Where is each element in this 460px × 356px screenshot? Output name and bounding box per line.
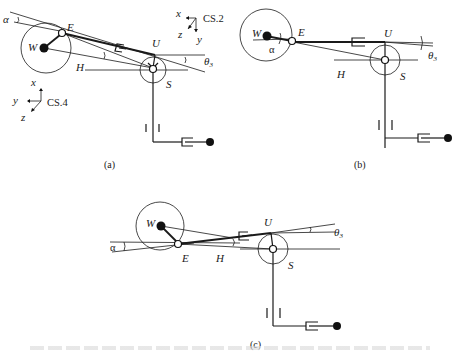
svg-text:y: y [12, 94, 18, 106]
shoulder-joint-S [270, 246, 277, 253]
elbow-joint-E [59, 30, 66, 37]
label-H: H [215, 252, 225, 264]
svg-text:z: z [20, 111, 26, 123]
svg-text:y: y [196, 33, 202, 45]
label-theta: θ3 [204, 55, 213, 69]
wrist-joint-W [157, 222, 166, 231]
svg-text:x: x [30, 76, 36, 88]
label-W: W [28, 41, 38, 53]
elbow-joint-E [289, 38, 296, 45]
coordinate-system-cs2: x y z CS.2 [175, 7, 224, 45]
base-endpoint [206, 138, 214, 146]
coordinate-system-cs4: x y z CS.4 [12, 76, 68, 123]
theta-arc [185, 57, 186, 63]
label-W: W [252, 27, 262, 39]
label-E: E [297, 26, 305, 38]
label-S: S [166, 78, 172, 90]
label-U: U [152, 37, 161, 49]
label-theta: θ3 [334, 226, 343, 240]
label-S: S [400, 70, 406, 82]
caption-b: (b) [354, 159, 366, 171]
base-endpoint [444, 134, 452, 142]
base-endpoint [333, 322, 341, 330]
label-W: W [146, 217, 156, 229]
e-s-line [293, 42, 385, 60]
panel-b: W α E U H S θ3 (b) [240, 9, 452, 171]
label-theta: θ3 [428, 49, 437, 63]
wrist-joint-W [263, 32, 272, 41]
alpha-line [14, 22, 60, 31]
label-H: H [75, 61, 85, 73]
elbow-joint-E [175, 241, 182, 248]
wrist-joint-W [40, 44, 49, 53]
svg-text:z: z [177, 28, 183, 40]
reference-line [10, 12, 205, 72]
shoulder-joint-S [150, 66, 157, 73]
shoulder-joint-S [382, 57, 389, 64]
label-alpha: α [3, 13, 9, 25]
svg-text:x: x [175, 7, 181, 19]
label-alpha: α [269, 44, 275, 55]
theta-line [271, 224, 335, 233]
label-U: U [264, 216, 273, 228]
label-alpha: α [110, 242, 116, 253]
panel-c: W α E U H S θ3 (c) [110, 202, 343, 351]
angle-arc [233, 239, 235, 246]
u-horizontal-line [271, 232, 335, 233]
cropped-caption-line [30, 346, 430, 350]
forearm-link [62, 33, 155, 55]
label-U: U [384, 27, 393, 39]
alpha-arc [124, 242, 125, 251]
cs4-label: CS.4 [47, 97, 68, 108]
label-E: E [66, 21, 74, 33]
angle-arc [104, 52, 105, 59]
panel-a: α E W U H S θ3 x y z CS.2 x y [3, 7, 224, 171]
cs2-label: CS.2 [203, 13, 224, 24]
alpha-arc [17, 17, 19, 23]
label-S: S [288, 259, 294, 271]
theta-arc [310, 227, 311, 232]
caption-a: (a) [104, 159, 115, 171]
label-E: E [181, 252, 189, 264]
mechanism-diagram: α E W U H S θ3 x y z CS.2 x y [0, 0, 460, 356]
label-H: H [336, 68, 346, 80]
forearm-link [178, 233, 271, 244]
